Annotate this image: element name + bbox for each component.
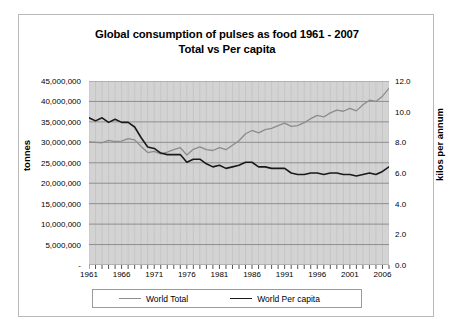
legend-label: World Total: [146, 294, 188, 304]
legend-entry[interactable]: World Total: [119, 294, 188, 304]
chart-title-line1: Global consumption of pulses as food 196…: [95, 28, 359, 40]
y-axis-left-tick-label: 5,000,000: [11, 240, 81, 249]
y-axis-left-tick-label: 30,000,000: [11, 138, 81, 147]
y-axis-right-tick-label: 8.0: [395, 138, 435, 147]
y-axis-left-tick-label: 15,000,000: [11, 199, 81, 208]
chart-legend: World TotalWorld Per capita: [92, 289, 362, 308]
y-axis-left-tick-label: -: [11, 261, 81, 270]
y-axis-right-tick-label: 2.0: [395, 230, 435, 239]
y-axis-right-tick-label: 4.0: [395, 199, 435, 208]
y-axis-right-tick-label: 6.0: [395, 169, 435, 178]
y-axis-left-tick-label: 45,000,000: [11, 77, 81, 86]
y-axis-right-tick-label: 10.0: [395, 107, 435, 116]
legend-entry[interactable]: World Per capita: [230, 294, 320, 304]
y-axis-left-tick-label: 35,000,000: [11, 117, 81, 126]
y-axis-left-tick-label: 40,000,000: [11, 97, 81, 106]
legend-line-swatch: [119, 298, 141, 299]
chart-title: Global consumption of pulses as food 196…: [19, 27, 435, 56]
legend-line-swatch: [230, 298, 252, 299]
y-axis-right-tick-label: 12.0: [395, 77, 435, 86]
chart-container: Global consumption of pulses as food 196…: [18, 14, 434, 317]
y-axis-left-tick-label: 10,000,000: [11, 220, 81, 229]
y-axis-left-tick-label: 25,000,000: [11, 158, 81, 167]
y-axis-right-tick-label: 0.0: [395, 261, 435, 270]
plot-area: [89, 81, 389, 265]
y-axis-right-title: kilos per annum: [434, 80, 445, 210]
chart-plot-svg: [89, 81, 389, 265]
legend-label: World Per capita: [257, 294, 320, 304]
chart-title-line2: Total vs Per capita: [19, 42, 435, 57]
y-axis-left-tick-label: 20,000,000: [11, 179, 81, 188]
vertical-gridlines: [89, 81, 389, 265]
x-axis-tick-label: 2006: [362, 270, 402, 279]
